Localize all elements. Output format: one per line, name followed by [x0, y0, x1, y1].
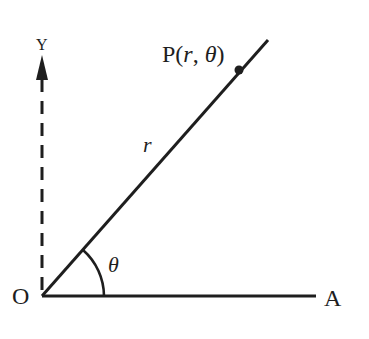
point-p-label: P(r, θ)	[162, 41, 224, 67]
angle-arc	[83, 250, 104, 296]
axis-end-label: A	[324, 285, 342, 311]
ray-op-line	[42, 40, 268, 296]
vertical-axis-label: Y	[36, 36, 48, 53]
point-p-marker	[235, 66, 244, 75]
angle-label: θ	[108, 252, 119, 277]
origin-label: O	[12, 283, 29, 309]
radius-label: r	[143, 132, 152, 157]
polar-coordinates-diagram: Y O A θ r P(r, θ)	[0, 0, 369, 339]
arrowhead-icon	[36, 55, 48, 80]
